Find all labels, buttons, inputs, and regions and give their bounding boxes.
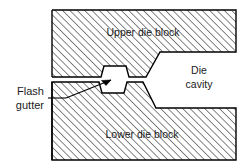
lower-die-block-label: Lower die block bbox=[106, 128, 180, 140]
flash-gutter-label-line2: gutter bbox=[16, 99, 44, 111]
die-cavity-label-line2: cavity bbox=[186, 78, 214, 90]
diagram-canvas: Upper die block Lower die block Die cavi… bbox=[0, 0, 242, 166]
forging-die-cross-section-figure: Upper die block Lower die block Die cavi… bbox=[0, 0, 242, 166]
flash-gutter-label-line1: Flash bbox=[17, 85, 44, 97]
upper-die-block-label: Upper die block bbox=[107, 26, 181, 38]
die-cavity-label-line1: Die bbox=[191, 64, 207, 76]
